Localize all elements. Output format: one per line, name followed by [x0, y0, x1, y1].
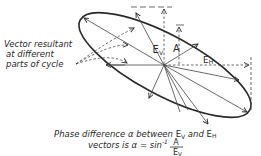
svg-text:Phase difference α between EV: Phase difference α between EV and EH — [54, 129, 216, 140]
leader-lines — [76, 28, 134, 64]
svg-text:A: A — [173, 138, 179, 147]
phase-caption: Phase difference α between EV and EH vec… — [54, 129, 216, 156]
svg-text:EV: EV — [173, 148, 182, 156]
a-label: A — [173, 43, 180, 54]
svg-text:at different: at different — [6, 49, 54, 59]
polarization-ellipse — [66, 0, 261, 137]
polarization-diagram: EV A EH Vector resultant at different pa… — [0, 0, 261, 156]
eh-label: EH — [203, 55, 213, 65]
svg-text:Vector resultant: Vector resultant — [4, 39, 73, 49]
vector-resultant-label: Vector resultant at different parts of c… — [4, 39, 73, 69]
svg-text:vectors is α = sin-1: vectors is α = sin-1 — [88, 138, 168, 150]
ev-label: EV — [153, 44, 164, 56]
svg-text:parts of cycle: parts of cycle — [5, 59, 63, 69]
